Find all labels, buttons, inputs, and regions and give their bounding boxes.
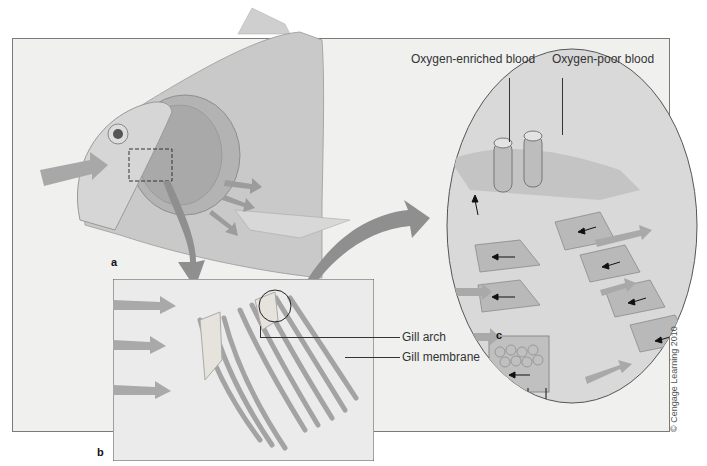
- leader-oxygen-enriched: [509, 78, 510, 142]
- leader-gill-membrane: [345, 357, 400, 358]
- gill-diagram-illustration: [0, 0, 707, 466]
- label-gill-membrane: Gill membrane: [402, 350, 480, 364]
- panel-label-a: a: [111, 256, 117, 268]
- dorsal-fin: [238, 8, 290, 34]
- label-oxygen-enriched-blood: Oxygen-enriched blood: [411, 52, 535, 66]
- oxygen-poor-vessel: [524, 135, 542, 187]
- leader-oxygen-poor: [562, 78, 563, 135]
- oxygen-enriched-vessel: [494, 142, 512, 192]
- label-gill-arch: Gill arch: [402, 330, 446, 344]
- panel-label-b: b: [97, 446, 104, 458]
- copyright-credit: © Cengage Learning 2010: [669, 326, 679, 432]
- leader-gill-arch: [260, 337, 400, 338]
- label-oxygen-poor-blood: Oxygen-poor blood: [552, 52, 654, 66]
- panel-label-c: c: [496, 329, 502, 341]
